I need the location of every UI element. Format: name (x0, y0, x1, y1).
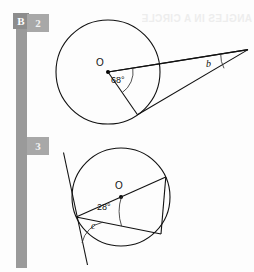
angle-arc-28 (119, 197, 121, 226)
chord-line (76, 217, 161, 234)
angle-label-b: b (206, 58, 211, 69)
chord-right-side (161, 177, 166, 234)
ray-centre-to-apex (108, 50, 248, 72)
question-number-2: 2 (27, 14, 49, 32)
angle-label-28: 28° (97, 202, 111, 212)
tangent-lower (138, 50, 249, 115)
angle-label-c: c (91, 220, 96, 231)
centre-label-o: O (96, 57, 104, 68)
figure-question-2: O 68° b (48, 10, 254, 136)
worksheet-page: B 2 3 ANGLES IN A CIRCLE O 68° b (0, 0, 254, 272)
section-rail (16, 20, 27, 268)
figure-question-3: O 28° c (44, 138, 224, 272)
tangent-line (64, 153, 88, 266)
centre-label-o: O (115, 180, 123, 191)
angle-label-68: 68° (111, 75, 125, 85)
angle-arc-b (221, 54, 224, 68)
